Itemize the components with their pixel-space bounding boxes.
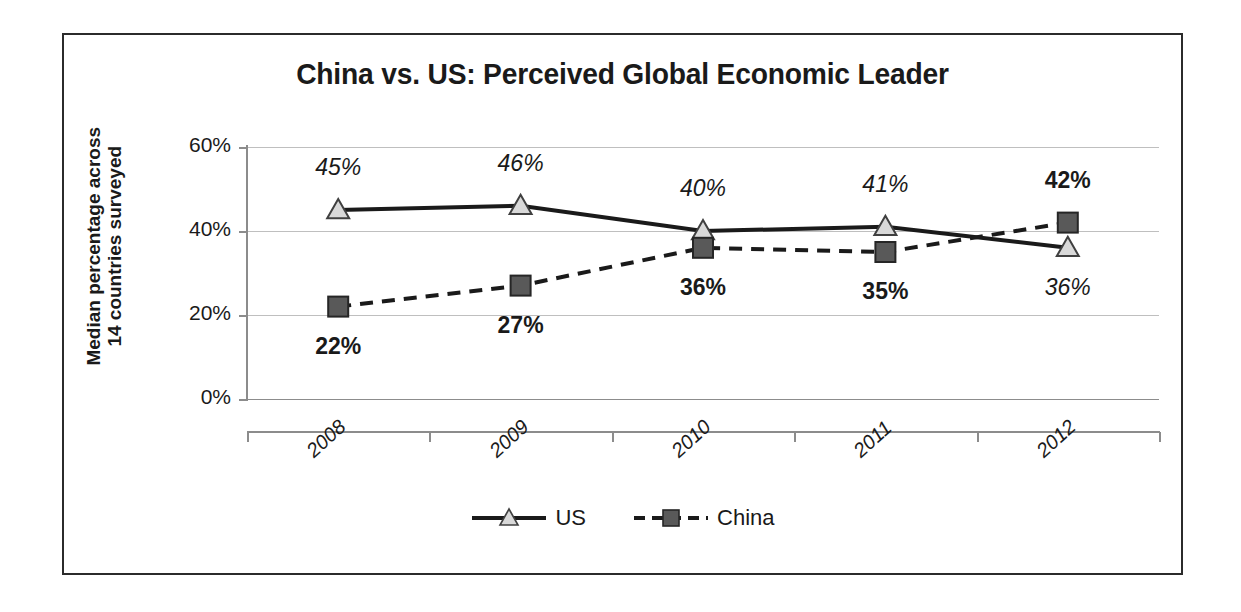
data-point-china-2010[interactable]: [693, 238, 713, 258]
data-point-china-2012[interactable]: [1058, 213, 1078, 233]
legend-item-china[interactable]: China: [632, 505, 774, 531]
chart-legend: US China: [64, 505, 1181, 531]
data-label-china-2009: 27%: [498, 312, 544, 339]
legend-item-us[interactable]: US: [470, 505, 586, 531]
data-label-us-2012: 36%: [1045, 274, 1091, 301]
us-legend-swatch: [470, 505, 548, 531]
series-plot: [64, 35, 1185, 577]
data-label-us-2009: 46%: [498, 150, 544, 177]
data-label-us-2010: 40%: [680, 175, 726, 202]
chart-frame: China vs. US: Perceived Global Economic …: [62, 33, 1183, 575]
data-point-china-2008[interactable]: [328, 297, 348, 317]
data-label-us-2011: 41%: [862, 171, 908, 198]
data-label-china-2012: 42%: [1045, 167, 1091, 194]
legend-label-us: US: [555, 505, 586, 531]
data-point-china-2011[interactable]: [875, 242, 895, 262]
legend-label-china: China: [717, 505, 774, 531]
data-label-us-2008: 45%: [315, 154, 361, 181]
data-label-china-2010: 36%: [680, 274, 726, 301]
data-point-china-2009[interactable]: [511, 276, 531, 296]
china-legend-swatch: [632, 505, 710, 531]
data-label-china-2008: 22%: [315, 333, 361, 360]
data-label-china-2011: 35%: [862, 278, 908, 305]
